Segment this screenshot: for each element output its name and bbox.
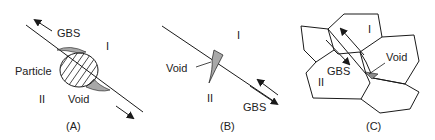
grain-c-2 bbox=[328, 14, 382, 54]
void-leader-c bbox=[369, 63, 385, 74]
void-b bbox=[209, 50, 223, 83]
panel-b: I Void II GBS (B) bbox=[162, 26, 278, 132]
grain-c-1 bbox=[301, 26, 334, 62]
void-label-b: Void bbox=[166, 62, 187, 74]
void-top-a bbox=[57, 47, 86, 53]
caption-c: (C) bbox=[366, 120, 381, 132]
grain-i-label-a: I bbox=[106, 40, 109, 52]
grain-i-label-c: I bbox=[368, 23, 371, 35]
gbs-arrow-up-c bbox=[341, 29, 364, 55]
gbs-label-a: GBS bbox=[57, 27, 80, 39]
panel-c bbox=[301, 14, 419, 113]
void-leader-b bbox=[196, 62, 211, 67]
gbs-label-c: GBS bbox=[327, 65, 350, 77]
gbs-arrow-up-a bbox=[35, 20, 52, 31]
gbs-arrow-down-a bbox=[116, 106, 133, 118]
grain-ii-label-b: II bbox=[207, 92, 213, 104]
particle-label: Particle bbox=[15, 65, 52, 77]
gbs-void-diagram: GBS I Particle II Void (A) I Void II GBS… bbox=[0, 0, 435, 140]
grain-ii-label-a: II bbox=[39, 93, 45, 105]
gbs-arrow-down-c bbox=[326, 40, 349, 64]
grain-ii-label-c: II bbox=[318, 76, 324, 88]
caption-a: (A) bbox=[66, 120, 81, 132]
panel-a: GBS I Particle II Void (A) bbox=[15, 20, 143, 132]
gbs-label-b: GBS bbox=[243, 101, 266, 113]
caption-b: (B) bbox=[220, 120, 235, 132]
void-label-a: Void bbox=[68, 93, 89, 105]
grain-i-label-b: I bbox=[237, 29, 240, 41]
void-label-c: Void bbox=[386, 51, 407, 63]
